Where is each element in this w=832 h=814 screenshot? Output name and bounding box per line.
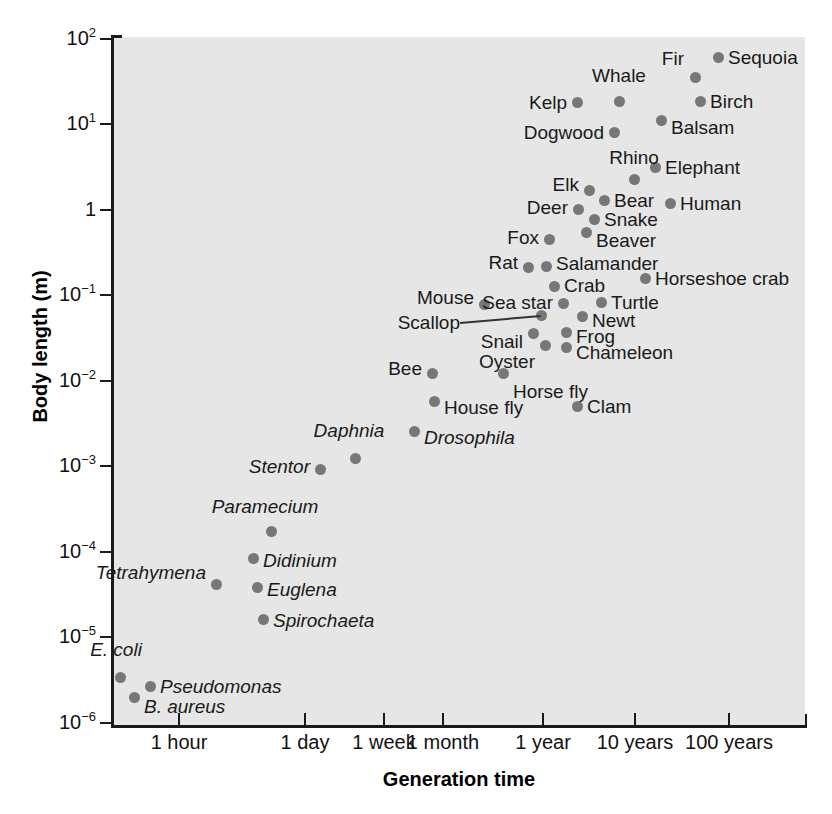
data-point-label: Birch <box>710 92 753 111</box>
x-tick-mark <box>442 713 444 726</box>
y-tick-mark <box>100 551 113 553</box>
data-point-label: Bee <box>388 359 422 378</box>
data-point-label: Rat <box>488 253 518 272</box>
data-point <box>252 582 263 593</box>
data-point-label: Fox <box>507 228 539 247</box>
data-point <box>549 281 560 292</box>
x-tick-label: 100 years <box>685 731 773 757</box>
data-point-label: Elk <box>553 175 579 194</box>
data-point <box>599 195 610 206</box>
data-point-label: Horseshoe crab <box>655 269 789 288</box>
x-tick-label: 1 month <box>407 731 479 757</box>
data-point-label: Salamander <box>556 254 658 273</box>
y-tick-mark <box>100 123 113 125</box>
y-tick-mark <box>100 636 113 638</box>
figure-scatter-body-length-vs-generation-time: 102101110−110−210−310−410−510−6 1 hour1 … <box>0 0 832 814</box>
data-point-label: Pseudomonas <box>160 677 281 696</box>
data-point-label: Horse fly <box>513 382 588 401</box>
data-point <box>572 401 583 412</box>
data-point <box>609 127 620 138</box>
data-point <box>266 526 277 537</box>
data-point <box>561 327 572 338</box>
x-tick-mark <box>383 713 385 726</box>
data-point <box>248 553 259 564</box>
x-tick-mark <box>634 713 636 726</box>
data-point-label: Sequoia <box>728 48 798 67</box>
data-point <box>541 261 552 272</box>
data-point <box>544 234 555 245</box>
data-point <box>656 115 667 126</box>
y-tick-label: 101 <box>0 112 96 136</box>
data-point <box>561 342 572 353</box>
data-point-label: Balsam <box>671 118 734 137</box>
data-point-label: Stentor <box>249 457 310 476</box>
data-point <box>584 185 595 196</box>
data-point <box>523 262 534 273</box>
y-tick-label: 10−4 <box>0 540 96 564</box>
data-point-label: Dogwood <box>524 123 604 142</box>
y-tick-label: 10−5 <box>0 625 96 649</box>
y-tick-label: 10−6 <box>0 711 96 735</box>
y-tick-label: 102 <box>0 27 96 51</box>
y-tick-mark <box>100 722 113 724</box>
data-point <box>572 97 583 108</box>
data-point-label: Euglena <box>267 580 337 599</box>
data-point-label: Deer <box>527 198 568 217</box>
x-tick-label: 1 year <box>515 731 571 757</box>
data-point-label: Scallop <box>398 313 460 332</box>
y-tick-mark <box>100 38 113 40</box>
x-tick-label: 1 day <box>281 731 330 757</box>
x-axis-right-cap <box>805 714 808 727</box>
data-point <box>211 579 222 590</box>
data-point <box>665 198 676 209</box>
x-tick-mark <box>304 713 306 726</box>
data-point <box>409 426 420 437</box>
x-axis-title: Generation time <box>113 768 805 791</box>
data-point <box>558 298 569 309</box>
data-point-label: Drosophila <box>424 428 515 447</box>
data-point <box>581 227 592 238</box>
data-point-label: Crab <box>564 276 605 295</box>
data-point-label: Oyster <box>479 352 535 371</box>
data-point-label: Mouse <box>417 288 474 307</box>
data-point <box>315 464 326 475</box>
data-point <box>429 396 440 407</box>
data-point-label: Bear <box>614 191 654 210</box>
y-tick-mark <box>100 294 113 296</box>
data-point <box>528 328 539 339</box>
x-tick-mark <box>728 713 730 726</box>
data-point-label: House fly <box>444 398 523 417</box>
data-point <box>115 672 126 683</box>
data-point-label: Human <box>680 194 741 213</box>
data-point <box>577 311 588 322</box>
x-axis-line <box>111 725 807 728</box>
data-point <box>614 96 625 107</box>
data-point-label: Chameleon <box>576 343 673 362</box>
data-point-label: Didinium <box>263 551 337 570</box>
y-axis-title: Body length (m) <box>29 197 52 497</box>
y-tick-mark <box>100 209 113 211</box>
y-tick-mark <box>100 465 113 467</box>
data-point-label: Fir <box>662 49 684 68</box>
data-point <box>629 174 640 185</box>
data-point-label: Kelp <box>529 93 567 112</box>
data-point-label: Daphnia <box>314 421 385 440</box>
data-point <box>640 273 651 284</box>
data-point-label: Paramecium <box>212 497 319 516</box>
data-point <box>145 681 156 692</box>
data-point-label: Spirochaeta <box>273 611 374 630</box>
data-point-label: Whale <box>592 66 646 85</box>
data-point-label: Sea star <box>482 293 553 312</box>
plot-area <box>113 37 805 725</box>
data-point-label: Beaver <box>596 231 656 250</box>
data-point-label: Snail <box>481 332 523 351</box>
data-point <box>540 340 551 351</box>
data-point <box>713 52 724 63</box>
data-point-label: Rhino <box>609 148 659 167</box>
data-point-label: Snake <box>604 210 658 229</box>
data-point-label: Tetrahymena <box>96 563 206 582</box>
data-point-label: E. coli <box>90 640 142 659</box>
data-point <box>589 214 600 225</box>
data-point <box>258 614 269 625</box>
data-point-label: Clam <box>587 397 631 416</box>
